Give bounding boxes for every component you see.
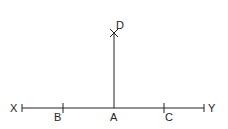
label-x: X (10, 102, 18, 114)
label-d: D (116, 19, 124, 31)
perpendicular-construction-diagram: X Y B A C D (0, 0, 228, 129)
label-b: B (54, 111, 61, 123)
label-c: C (165, 111, 173, 123)
label-y: Y (208, 102, 216, 114)
label-a: A (110, 111, 118, 123)
